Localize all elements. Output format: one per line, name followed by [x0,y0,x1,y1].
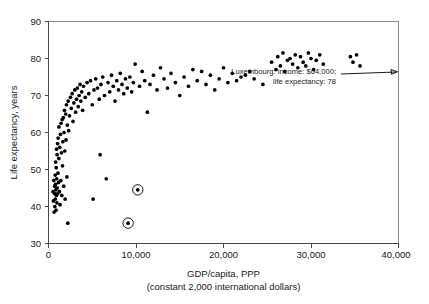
data-point [178,94,182,98]
data-point [124,77,128,81]
data-point [276,55,280,59]
data-point [58,145,62,149]
data-point [56,171,60,175]
data-point [291,62,295,66]
data-point [83,96,87,100]
data-point [87,92,91,96]
data-point [58,203,62,207]
data-point [101,75,105,79]
annotation-arrow-line [341,72,396,74]
data-point [132,81,136,85]
data-point [59,133,63,137]
data-point [55,186,59,190]
data-point [62,131,66,135]
data-point [115,79,119,83]
data-point [159,66,163,70]
data-point [77,94,81,98]
data-point [70,92,74,96]
data-point [148,83,152,87]
data-point [67,129,71,133]
data-point [79,99,83,103]
data-point [66,221,70,225]
data-point [54,166,58,170]
data-point [288,57,292,61]
data-point [54,160,58,164]
data-point [166,86,170,90]
data-point [351,60,355,64]
data-point [349,55,353,59]
data-point [78,83,82,87]
data-point [74,110,78,114]
data-point [108,90,112,94]
data-point [69,96,73,100]
y-tick-label: 70 [30,90,41,101]
annotation-line-2: life expectancy: 78 [273,77,336,86]
data-point [94,77,98,81]
data-point [120,83,124,87]
data-point [111,84,115,88]
data-point [261,83,265,87]
data-point [270,60,274,64]
data-point [136,188,140,192]
data-point [235,79,239,83]
data-point [63,149,67,153]
data-point [182,75,186,79]
chart-figure: 90 80 70 60 50 40 30 0 10,000 20,000 30,… [0,0,429,304]
data-point [55,201,59,205]
y-axis-ticks [45,22,49,244]
data-point [321,62,325,66]
data-point [80,90,84,94]
data-point [191,68,195,72]
data-point [155,88,159,92]
y-tick-label: 40 [30,201,41,212]
data-point [56,142,60,146]
data-point [104,177,108,181]
data-point [75,97,79,101]
x-tick-label: 40,000 [381,249,410,260]
data-point [122,92,126,96]
data-point [213,88,217,92]
data-point [110,73,114,77]
x-tick-label: 0 [46,249,51,260]
data-point [125,86,129,90]
highlighted-points-layer [123,185,143,229]
data-point [318,53,322,57]
y-tick-label: 60 [30,127,41,138]
data-point [98,153,102,157]
data-point [99,83,103,87]
data-point [106,81,110,85]
data-point [76,86,80,90]
data-point [85,81,89,85]
data-point [217,77,221,81]
data-point [314,59,318,63]
data-point [82,84,86,88]
data-point [204,83,208,87]
data-point [118,71,122,75]
data-point [281,51,285,55]
data-point [62,184,66,188]
y-tick-label: 80 [30,53,41,64]
data-point [162,77,166,81]
scatter-plot: 90 80 70 60 50 40 30 0 10,000 20,000 30,… [0,0,429,304]
data-point [355,53,359,57]
data-point [152,73,156,77]
data-point [57,157,61,161]
x-tick-label: 30,000 [296,249,325,260]
data-point [63,197,67,201]
y-tick-label: 50 [30,164,41,175]
data-point [57,125,61,129]
data-point [55,147,59,151]
data-point [187,84,191,88]
data-point [117,88,121,92]
data-point [200,70,204,74]
data-point [60,151,64,155]
data-point [60,194,64,198]
annotation-line-1: Luxembourg: income: $64,000; [231,67,336,76]
data-point [90,103,94,107]
data-point [63,108,67,112]
data-point [195,79,199,83]
data-point [103,94,107,98]
data-point [59,179,63,183]
data-point [56,136,60,140]
data-point [91,197,95,201]
